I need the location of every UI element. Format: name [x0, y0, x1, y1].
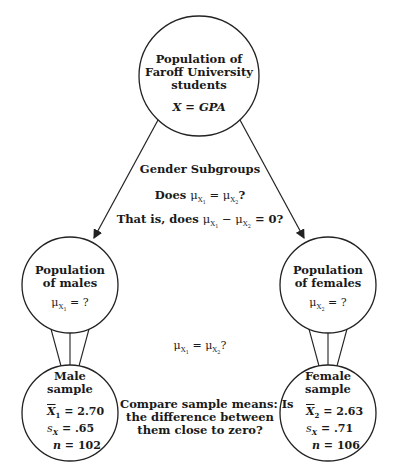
female-sample-title: Female sample — [278, 370, 378, 396]
title-line: of males — [20, 277, 120, 290]
title-line: sample — [278, 383, 378, 396]
question-zero-difference: That is, does μX1 − μX2 = 0? — [100, 213, 300, 233]
male-sample-sd: sX = .65 — [47, 422, 104, 439]
female-sample-mean: X2 = 2.63 — [306, 405, 363, 422]
gender-subgroups-heading: Gender Subgroups — [120, 163, 280, 176]
question-equal-means: Does μX1 = μX2? — [110, 189, 290, 209]
question-suffix: = 0? — [251, 212, 283, 226]
title-line: sample — [20, 383, 120, 396]
male-sample-mean: X1 = 2.70 — [47, 405, 104, 422]
n-symbol: n — [312, 439, 320, 452]
equals-sign: = — [189, 339, 205, 352]
top-node-title: Population of Faroff University students — [139, 53, 259, 92]
male-sample-stats: X1 = 2.70 sX = .65 n = 102 — [47, 405, 104, 452]
sd-value: = .71 — [317, 422, 353, 435]
mean-value: = 2.70 — [60, 405, 104, 418]
mu-symbol: μ — [235, 212, 242, 226]
female-sample-sd: sX = .71 — [306, 422, 363, 439]
annotation-line: them close to zero? — [120, 424, 280, 437]
male-population-mean: μX1 = ? — [20, 296, 120, 316]
male-sample-title: Male sample — [20, 370, 120, 396]
sd-value: = .65 — [58, 422, 94, 435]
xbar-symbol: X — [306, 405, 315, 418]
center-equation: μX1 = μX2? — [150, 339, 250, 359]
xbar-symbol: X — [47, 405, 56, 418]
female-funnel-line-right — [337, 329, 347, 366]
male-sample-n: n = 102 — [47, 439, 104, 452]
unknown-value: = ? — [325, 296, 347, 309]
n-value: = 106 — [320, 439, 360, 452]
female-sample-n: n = 106 — [306, 439, 363, 452]
female-population-mean: μX2 = ? — [278, 296, 378, 316]
diagram-canvas: Population of Faroff University students… — [0, 0, 398, 476]
male-population-title: Population of males — [20, 264, 120, 290]
title-line: of females — [278, 277, 378, 290]
gpa-variable: X = GPA — [172, 100, 225, 114]
equals-sign: = — [206, 188, 223, 202]
female-population-title: Population of females — [278, 264, 378, 290]
female-sample-stats: X2 = 2.63 sX = .71 n = 106 — [306, 405, 363, 452]
minus-sign: − — [218, 212, 235, 226]
question-prefix: Does — [155, 188, 190, 202]
male-funnel-line-left — [51, 329, 61, 366]
compare-means-annotation: Compare sample means: Is the difference … — [120, 398, 280, 437]
mean-value: = 2.63 — [319, 405, 363, 418]
top-node-variable: X = GPA — [139, 101, 259, 114]
mu-symbol: μ — [174, 339, 181, 352]
question-prefix: That is, does — [117, 212, 203, 226]
top-node-title-line: students — [139, 79, 259, 92]
n-value: = 102 — [61, 439, 101, 452]
n-symbol: n — [53, 439, 61, 452]
mu-symbol: μ — [190, 188, 197, 202]
question-mark: ? — [220, 339, 226, 352]
question-suffix: ? — [238, 188, 245, 202]
unknown-value: = ? — [67, 296, 89, 309]
female-funnel-line-left — [309, 329, 319, 366]
male-funnel-line-right — [79, 329, 89, 366]
